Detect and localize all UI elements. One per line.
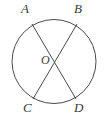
chord-ad xyxy=(32,24,76,99)
point-label-b: B xyxy=(74,2,82,15)
point-label-a: A xyxy=(21,2,29,15)
point-label-c: C xyxy=(23,101,32,114)
point-label-o: O xyxy=(41,54,50,66)
point-label-d: D xyxy=(74,101,83,114)
geometry-figure: A B C D O xyxy=(0,0,105,117)
figure-canvas xyxy=(0,0,105,117)
chord-bc xyxy=(33,24,77,99)
